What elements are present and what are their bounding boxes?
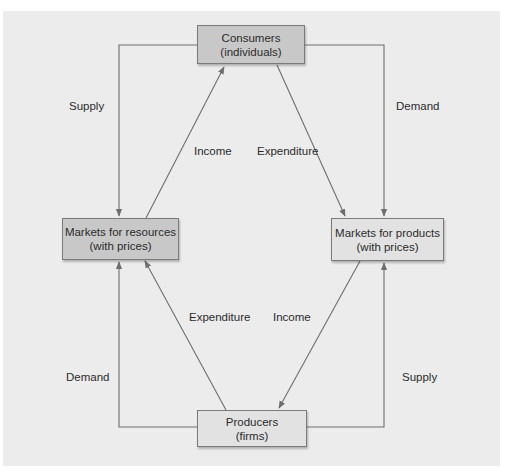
resource-markets-subtitle: (with prices) (90, 239, 152, 253)
supply-bottom-label: Supply (402, 371, 437, 383)
producers-node: Producers (firms) (197, 410, 307, 447)
demand-bottom-label: Demand (66, 371, 109, 383)
consumers-subtitle: (individuals) (220, 45, 281, 59)
expenditure-top-label: Expenditure (257, 145, 318, 157)
income-top-label: Income (194, 145, 232, 157)
consumers-node: Consumers (individuals) (197, 25, 305, 64)
product-markets-subtitle: (with prices) (357, 240, 419, 254)
consumers-title: Consumers (222, 31, 281, 45)
income-bottom-arrow (279, 261, 360, 408)
expenditure-bottom-label: Expenditure (189, 311, 250, 323)
expenditure-top-arrow (277, 65, 345, 216)
resource-markets-node: Markets for resources (with prices) (62, 218, 179, 260)
expenditure-bottom-arrow (145, 261, 226, 410)
producers-title: Producers (226, 415, 278, 429)
demand-top-label: Demand (396, 100, 439, 112)
product-markets-title: Markets for products (335, 226, 440, 240)
demand-bottom-left-arrow (119, 262, 197, 427)
income-top-arrow (146, 67, 224, 218)
demand-top-right-arrow (305, 45, 384, 216)
producers-subtitle: (firms) (236, 429, 269, 443)
product-markets-node: Markets for products (with prices) (331, 218, 444, 261)
supply-top-label: Supply (69, 100, 104, 112)
income-bottom-label: Income (273, 311, 311, 323)
supply-top-left-arrow (119, 45, 198, 216)
resource-markets-title: Markets for resources (65, 225, 176, 239)
